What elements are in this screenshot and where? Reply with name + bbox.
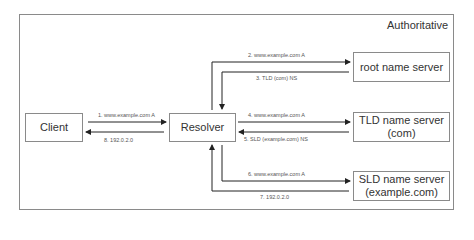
arrow-step-7 (212, 145, 349, 191)
client-node: Client (25, 113, 83, 142)
tld-server-node: TLD name server (com) (353, 112, 450, 142)
resolver-node: Resolver (169, 113, 236, 142)
tld-server-label-line1: TLD name server (359, 114, 444, 127)
step-8-label: 8. 192.0.2.0 (104, 137, 133, 143)
client-label: Client (40, 121, 68, 134)
step-5-label: 5. SLD (example.com) NS (244, 136, 308, 142)
arrow-step-2 (212, 62, 350, 110)
step-7-label: 7. 192.0.2.0 (260, 194, 289, 200)
step-3-label: 3. TLD (com) NS (256, 75, 297, 81)
sld-server-node: SLD name server (example.com) (353, 171, 450, 201)
root-server-label: root name server (360, 61, 443, 74)
tld-server-label-line2: (com) (387, 127, 415, 140)
resolver-label: Resolver (181, 121, 224, 134)
sld-server-label-line2: (example.com) (365, 186, 438, 199)
step-2-label: 2. www.example.com A (248, 52, 305, 58)
sld-server-label-line1: SLD name server (359, 173, 445, 186)
root-server-node: root name server (353, 52, 450, 82)
step-1-label: 1. www.example.com A (98, 112, 155, 118)
step-4-label: 4. www.example.com A (248, 112, 305, 118)
step-6-label: 6. www.example.com A (248, 171, 305, 177)
